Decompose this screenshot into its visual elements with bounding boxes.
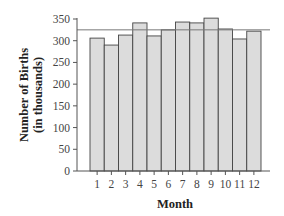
bar-month-1 (90, 38, 104, 171)
bar-month-2 (104, 45, 118, 171)
x-tick-label: 1 (94, 178, 100, 190)
y-tick-label: 50 (59, 143, 71, 155)
y-tick-label: 200 (53, 78, 71, 90)
y-tick-label: 350 (53, 13, 71, 25)
x-axis-label: Month (157, 197, 193, 211)
y-axis-title: Number of Births (in thousands) (17, 48, 45, 142)
bar-month-6 (161, 30, 175, 171)
bar-month-8 (190, 23, 204, 171)
x-axis-ticks: 123456789101112 (94, 171, 260, 190)
bar-month-11 (233, 39, 247, 171)
bar-month-3 (119, 35, 133, 171)
bar-month-9 (204, 18, 218, 171)
x-tick-label: 7 (180, 178, 186, 190)
x-tick-label: 10 (220, 178, 232, 190)
x-tick-label: 11 (234, 178, 245, 190)
y-axis-label: Number of Births (17, 48, 31, 142)
y-axis-sublabel: (in thousands) (31, 57, 45, 133)
bar-chart: Number of Births (in thousands) 05010015… (0, 0, 284, 216)
x-tick-label: 2 (109, 178, 115, 190)
bar-month-5 (147, 36, 161, 171)
x-tick-label: 12 (248, 178, 260, 190)
x-tick-label: 6 (166, 178, 172, 190)
y-axis-ticks: 050100150200250300350 (53, 13, 77, 177)
x-tick-label: 5 (151, 178, 157, 190)
bars (90, 18, 261, 171)
y-tick-label: 100 (53, 122, 71, 134)
bar-month-12 (247, 31, 261, 171)
bar-month-10 (218, 29, 232, 171)
y-tick-label: 300 (53, 35, 71, 47)
y-tick-label: 150 (53, 100, 71, 112)
x-tick-label: 8 (194, 178, 200, 190)
x-tick-label: 9 (208, 178, 214, 190)
bar-month-4 (133, 23, 147, 171)
bar-month-7 (176, 22, 190, 171)
y-tick-label: 250 (53, 56, 71, 68)
x-tick-label: 4 (137, 178, 143, 190)
x-tick-label: 3 (123, 178, 129, 190)
y-tick-label: 0 (64, 165, 70, 177)
